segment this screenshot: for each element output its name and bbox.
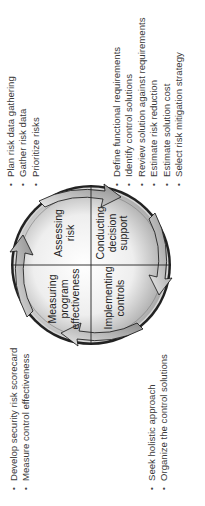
diagram-stage: Develop security risk scorecard Measure …: [0, 0, 205, 506]
list-item: Estimate risk reduction: [148, 18, 160, 186]
list-item: Develop security risk scorecard: [8, 348, 20, 490]
quadrant-label-line: Measuring: [47, 267, 59, 331]
quadrant-label-line: controls: [115, 265, 127, 331]
list-item: Prioritize risks: [30, 76, 42, 186]
quadrant-label-line: Conducting: [95, 203, 107, 263]
quadrant-label-line: Assessing: [53, 203, 65, 263]
list-item: Review solution against requirements: [136, 18, 148, 186]
list-item: Identify control solutions: [123, 18, 135, 186]
quadrant-label-line: Implementing: [103, 265, 115, 331]
quadrant-implementing: Implementing controls: [103, 265, 126, 331]
quadrant-label-line: support: [118, 203, 130, 263]
assessing-bullets: Plan risk data gathering Gather risk dat…: [5, 76, 42, 186]
list-item: Define functional requirements: [111, 18, 123, 186]
quadrant-conducting: Conducting decision support: [95, 203, 130, 263]
measuring-bullets: Develop security risk scorecard Measure …: [8, 348, 33, 490]
list-item: Select risk mitigation strategy: [173, 18, 185, 186]
list-item: Seek holistic approach: [146, 354, 158, 490]
list-item: Gather risk data: [17, 76, 29, 186]
list-item: Estimate solution cost: [161, 18, 173, 186]
decision-bullets: Define functional requirements Identify …: [111, 18, 185, 186]
quadrant-measuring: Measuring program effectiveness: [47, 267, 82, 331]
quadrant-label-line: effectiveness: [70, 267, 82, 331]
quadrant-assessing: Assessing risk: [53, 203, 76, 263]
list-item: Measure control effectiveness: [20, 348, 32, 490]
list-item: Organize the control solutions: [158, 354, 170, 490]
cycle-diagram: Measuring program effectiveness Assessin…: [9, 183, 173, 347]
implementing-bullets: Seek holistic approach Organize the cont…: [146, 354, 171, 490]
quadrant-label-line: risk: [65, 203, 77, 263]
cycle-circle-graphic: [9, 183, 173, 347]
list-item: Plan risk data gathering: [5, 76, 17, 186]
